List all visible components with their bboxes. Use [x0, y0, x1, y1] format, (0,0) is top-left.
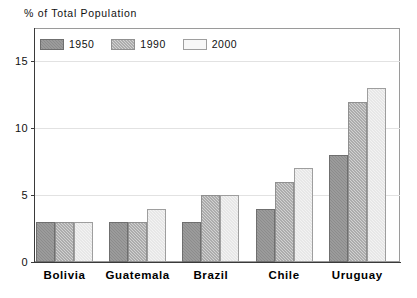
- gridline-15: [35, 61, 400, 62]
- bar-guatemala-1990: [128, 222, 147, 262]
- x-axis-line: [34, 262, 401, 263]
- legend-swatch-2000-icon: [183, 39, 207, 50]
- chart-title: % of Total Population: [24, 7, 137, 19]
- legend-label-1950: 1950: [69, 39, 94, 50]
- y-tick-mark-15: [31, 61, 35, 62]
- bar-chile-2000: [294, 168, 313, 262]
- legend-item-1950[interactable]: 1950: [40, 39, 94, 50]
- bar-chile-1950: [256, 209, 275, 262]
- gridline-10: [35, 128, 400, 129]
- bar-uruguay-2000: [367, 88, 386, 262]
- legend-label-2000: 2000: [212, 39, 237, 50]
- y-tick-mark-10: [31, 128, 35, 129]
- bar-guatemala-2000: [147, 209, 166, 262]
- bar-bolivia-2000: [74, 222, 93, 262]
- bar-uruguay-1950: [329, 155, 348, 262]
- y-axis-line: [34, 28, 35, 263]
- bar-bolivia-1950: [36, 222, 55, 262]
- legend-item-2000[interactable]: 2000: [183, 39, 237, 50]
- y-tick-mark-5: [31, 195, 35, 196]
- bar-uruguay-1990: [348, 102, 367, 262]
- y-tick-label-5: 5: [2, 190, 28, 201]
- legend-item-1990[interactable]: 1990: [111, 39, 165, 50]
- bar-guatemala-1950: [109, 222, 128, 262]
- bar-bolivia-1990: [55, 222, 74, 262]
- bar-chart: % of Total Population 051015 BoliviaGuat…: [0, 0, 417, 298]
- bar-brazil-1950: [182, 222, 201, 262]
- y-tick-label-10: 10: [2, 123, 28, 134]
- y-tick-mark-0: [31, 262, 35, 263]
- legend-swatch-1990-icon: [111, 39, 135, 50]
- y-tick-label-0: 0: [2, 257, 28, 268]
- bar-chile-1990: [275, 182, 294, 262]
- bar-brazil-2000: [220, 195, 239, 262]
- x-tick-label-uruguay: Uruguay: [307, 270, 407, 282]
- y-tick-label-15: 15: [2, 56, 28, 67]
- bar-brazil-1990: [201, 195, 220, 262]
- chart-legend: 1950 1990 2000: [40, 39, 237, 50]
- legend-swatch-1950-icon: [40, 39, 64, 50]
- legend-label-1990: 1990: [140, 39, 165, 50]
